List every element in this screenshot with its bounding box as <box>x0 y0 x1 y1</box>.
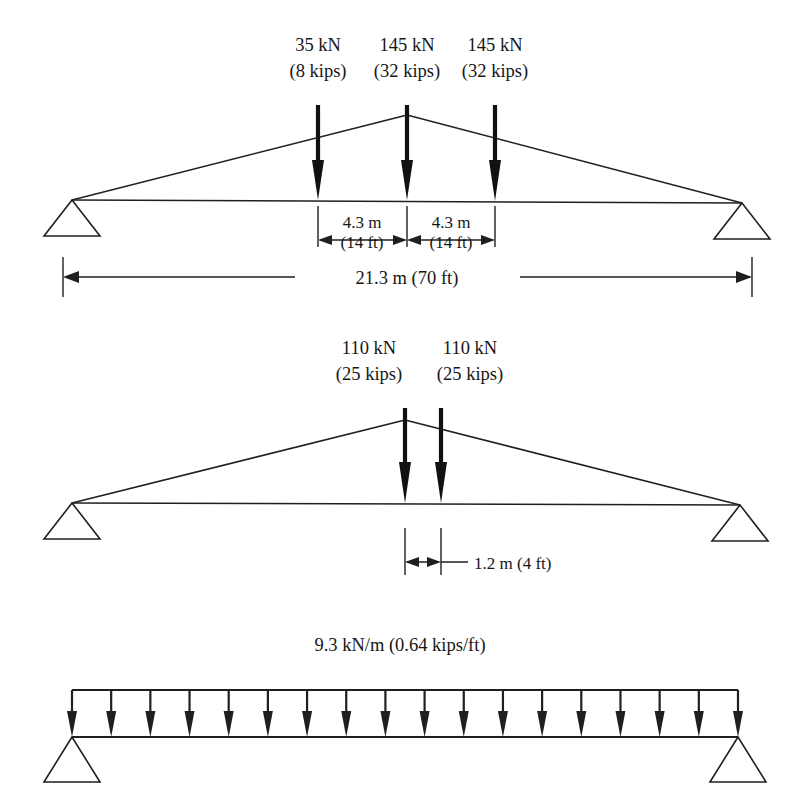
support-left-triangle <box>44 200 100 236</box>
top-chord-right <box>405 420 740 505</box>
point-load-1-label-us: (25 kips) <box>336 364 402 385</box>
udl-arrow-head <box>615 711 625 737</box>
udl-arrow-head <box>224 711 234 737</box>
spacing-label: 1.2 m (4 ft) <box>474 554 551 573</box>
spacing-left-label-us: (14 ft) <box>341 233 384 252</box>
udl-arrow-head <box>733 711 743 737</box>
dim-arrow-head-right <box>427 557 441 567</box>
point-load-2-label-us: (25 kips) <box>437 364 503 385</box>
point-load-2 <box>435 408 447 503</box>
spacing-right-label-si: 4.3 m <box>432 213 471 232</box>
support-left-triangle <box>44 503 100 539</box>
point-load-1-label-si: 110 kN <box>342 338 396 358</box>
bottom-chord <box>72 200 742 203</box>
spacing-right-label-us: (14 ft) <box>430 233 473 252</box>
dim-arrow-head-right <box>481 235 495 245</box>
udl-label: 9.3 kN/m (0.64 kips/ft) <box>314 635 485 656</box>
truss-top-group: 35 kN (8 kips) 145 kN (32 kips) 145 kN (… <box>44 35 770 297</box>
udl-arrow-head <box>459 711 469 737</box>
udl-arrow-head <box>106 711 116 737</box>
udl-arrow-head <box>67 711 77 737</box>
point-load-2-label-si: 145 kN <box>380 35 435 55</box>
udl-arrow-head <box>537 711 547 737</box>
udl-arrow-head <box>655 711 665 737</box>
point-load-1-label-si: 35 kN <box>295 35 341 55</box>
truss-middle-group: 110 kN (25 kips) 110 kN (25 kips) 1.2 m … <box>44 338 768 575</box>
load-arrow-head <box>401 160 413 200</box>
spacing-left-label-si: 4.3 m <box>343 213 382 232</box>
load-arrow-head <box>399 462 411 503</box>
span-arrow-head-right <box>736 271 752 283</box>
udl-arrow-head <box>341 711 351 737</box>
udl-arrow-head <box>185 711 195 737</box>
dim-arrow-head-left <box>407 235 421 245</box>
point-load-3 <box>489 105 501 201</box>
load-arrow-head <box>312 160 324 200</box>
span-label: 21.3 m (70 ft) <box>356 268 459 289</box>
udl-arrow-head <box>263 711 273 737</box>
udl-arrow-head <box>694 711 704 737</box>
figure-root: 35 kN (8 kips) 145 kN (32 kips) 145 kN (… <box>0 0 801 810</box>
udl-arrow-head <box>302 711 312 737</box>
udl-arrow-head <box>576 711 586 737</box>
loading-diagrams-svg: 35 kN (8 kips) 145 kN (32 kips) 145 kN (… <box>0 0 801 810</box>
load-arrow-head <box>489 160 501 201</box>
bottom-chord <box>72 503 740 505</box>
udl-arrow-head <box>380 711 390 737</box>
point-load-3-label-us: (32 kips) <box>462 61 528 82</box>
beam-bottom-group: 9.3 kN/m (0.64 kips/ft) <box>44 635 766 782</box>
load-arrow-head <box>435 462 447 503</box>
support-left-triangle <box>44 737 100 782</box>
dim-arrow-head-left <box>318 235 332 245</box>
point-load-2-label-us: (32 kips) <box>374 61 440 82</box>
point-load-1 <box>399 408 411 503</box>
truss-middle-spacing-dimension <box>405 528 468 575</box>
support-right-triangle <box>714 203 770 239</box>
udl-arrow-head <box>498 711 508 737</box>
point-load-3-label-si: 145 kN <box>468 35 523 55</box>
dim-arrow-head-left <box>405 557 419 567</box>
udl-arrow-head <box>420 711 430 737</box>
udl-arrow-head <box>145 711 155 737</box>
top-chord-left <box>72 420 405 503</box>
dim-arrow-head-right <box>393 235 407 245</box>
top-chord-right <box>407 115 742 203</box>
top-chord-left <box>72 115 407 200</box>
point-load-1-label-us: (8 kips) <box>289 61 346 82</box>
support-right-triangle <box>712 505 768 541</box>
span-arrow-head-left <box>63 271 79 283</box>
support-right-triangle <box>710 737 766 782</box>
point-load-2-label-si: 110 kN <box>443 338 497 358</box>
point-load-2 <box>401 105 413 200</box>
point-load-1 <box>312 105 324 200</box>
udl-arrow-group <box>67 690 743 737</box>
